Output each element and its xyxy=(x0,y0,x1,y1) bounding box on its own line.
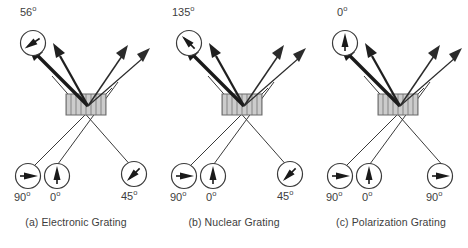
bottom-left-angle-label: 90o xyxy=(14,192,30,203)
outgoing-beam-thin-secondary xyxy=(244,48,306,106)
panel-a-caption: (a) Electronic Grating xyxy=(0,216,156,228)
top-angle-label: 56o xyxy=(20,7,36,18)
bottom-center-angle-label: 0o xyxy=(362,192,372,203)
panel-b-caption: (b) Nuclear Grating xyxy=(156,216,312,228)
top-left-polarization-circle xyxy=(177,31,202,56)
panel-nuclear-grating: 135o 90o 0o 45o (b) Nuclear Grating xyxy=(156,0,312,248)
bottom-right-angle-label: 90o xyxy=(426,192,442,203)
bottom-right-polarization-circle xyxy=(428,164,453,189)
top-left-polarization-circle xyxy=(21,31,46,56)
top-angle-label: 0o xyxy=(337,7,347,18)
bottom-center-polarization-circle xyxy=(45,164,70,189)
outgoing-beam-thin-secondary xyxy=(88,48,150,106)
bottom-left-angle-label: 90o xyxy=(170,192,186,203)
bottom-right-angle-label: 45o xyxy=(121,191,137,202)
top-left-polarization-circle xyxy=(333,31,358,56)
bottom-left-polarization-circle xyxy=(328,164,353,189)
bottom-left-angle-label: 90o xyxy=(326,192,342,203)
bottom-center-polarization-circle xyxy=(201,164,226,189)
outgoing-beam-thin-secondary xyxy=(400,48,462,106)
outgoing-beam-thin-primary xyxy=(400,45,440,106)
bottom-right-angle-label: 45o xyxy=(277,191,293,202)
bottom-center-angle-label: 0o xyxy=(206,192,216,203)
panel-polarization-grating: 0o 90o 0o 90o (c) Polarization Grating xyxy=(312,0,468,248)
panel-b-diagram xyxy=(156,0,312,214)
outgoing-beam-thin-primary xyxy=(88,45,128,106)
incoming-beam-from-bottom-right xyxy=(364,76,445,168)
panel-a-diagram xyxy=(0,0,156,214)
panel-c-diagram xyxy=(312,0,468,214)
outgoing-beam-thin-primary xyxy=(244,45,284,106)
incoming-beam-from-bottom-right xyxy=(208,76,289,168)
bottom-center-angle-label: 0o xyxy=(50,192,60,203)
grating-figure: 56o 90o 0o 45o (a) Electronic Grating xyxy=(0,0,468,248)
panel-electronic-grating: 56o 90o 0o 45o (a) Electronic Grating xyxy=(0,0,156,248)
bottom-left-polarization-circle xyxy=(172,164,197,189)
bottom-left-polarization-circle xyxy=(16,164,41,189)
panel-c-caption: (c) Polarization Grating xyxy=(312,216,468,228)
bottom-center-polarization-circle xyxy=(357,164,382,189)
bottom-right-polarization-circle xyxy=(122,162,147,187)
bottom-right-polarization-circle xyxy=(278,162,303,187)
top-angle-label: 135o xyxy=(172,7,195,18)
incoming-beam-from-bottom-right xyxy=(52,76,133,168)
